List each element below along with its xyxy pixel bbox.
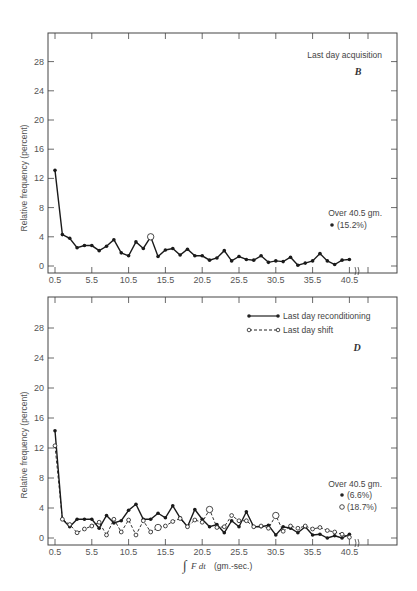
data-point-filled (97, 526, 101, 530)
data-point-open (348, 535, 352, 539)
data-point-filled (274, 533, 278, 537)
data-point-filled (245, 258, 249, 262)
data-point-filled (237, 525, 241, 529)
data-point-open (75, 531, 79, 535)
x-tick-label: 0.5 (49, 547, 62, 557)
over-marker-open (340, 505, 345, 510)
over-label: Over 40.5 gm. (328, 479, 382, 489)
data-point-filled (274, 259, 278, 263)
legend-label-shift: Last day shift (283, 325, 334, 335)
data-point-open (289, 524, 293, 528)
chart-panel-d: 04812162024280.55.510.515.520.525.530.53… (19, 297, 397, 574)
x-tick-label: 40.5 (341, 547, 359, 557)
y-tick-label: 20 (34, 383, 44, 393)
data-point-filled (90, 517, 94, 521)
axis-break-icon (355, 539, 359, 547)
y-tick-label: 4 (39, 503, 44, 513)
over-value-open: (18.7%) (347, 502, 377, 512)
y-tick-label: 24 (34, 353, 44, 363)
panel-title: Last day acquisition (307, 50, 382, 60)
data-point-filled (193, 254, 197, 258)
data-point-filled (245, 510, 249, 514)
x-tick-label: 5.5 (86, 275, 99, 285)
data-point-open (90, 524, 94, 528)
data-point-filled (311, 259, 315, 263)
data-point-open (97, 520, 101, 524)
data-point-open (215, 526, 219, 530)
x-tick-label: 20.5 (193, 547, 211, 557)
data-point-filled (303, 261, 307, 265)
legend-label-reconditioning: Last day reconditioning (283, 311, 371, 321)
over-value: (15.2%) (337, 220, 367, 230)
legend-item-shift: Last day shift (247, 325, 334, 335)
y-tick-label: 8 (39, 203, 44, 213)
data-point-filled (289, 255, 293, 259)
y-tick-label: 20 (34, 115, 44, 125)
data-point-filled (127, 254, 131, 258)
data-point-filled (105, 514, 109, 518)
data-point-filled (142, 247, 146, 251)
data-point-filled (348, 258, 352, 262)
figure: 04812162024280.55.510.515.520.525.530.53… (0, 0, 417, 591)
data-point-filled (267, 261, 271, 265)
over-marker-filled (330, 223, 334, 227)
x-tick-label: 40.5 (341, 275, 359, 285)
integral-sign: ∫ (182, 558, 188, 574)
data-point-filled (68, 236, 72, 240)
data-point-open (303, 524, 307, 528)
data-point-open (186, 525, 190, 529)
data-point-filled (222, 249, 226, 253)
data-point-filled (318, 252, 322, 256)
data-point-filled (90, 244, 94, 248)
data-point-open (273, 512, 279, 518)
data-point-filled (230, 259, 234, 263)
y-tick-label: 16 (34, 413, 44, 423)
data-point-open (244, 519, 248, 523)
data-point-filled (230, 519, 234, 523)
data-point-open (127, 518, 131, 522)
data-point-open (105, 533, 109, 537)
x-tick-label: 35.5 (304, 547, 322, 557)
data-point-filled (171, 504, 175, 508)
data-point-filled (340, 536, 344, 540)
data-point-open (164, 524, 168, 528)
data-point-open (119, 530, 123, 534)
over-marker-filled (340, 493, 344, 497)
data-point-filled (149, 517, 153, 521)
data-point-filled (215, 256, 219, 260)
data-point-filled (127, 508, 131, 512)
data-point-filled (105, 244, 109, 248)
y-tick-label: 12 (34, 443, 44, 453)
data-point-filled (186, 247, 190, 251)
data-point-filled (259, 254, 263, 258)
x-tick-label: 0.5 (49, 275, 62, 285)
x-tick-label: 25.5 (230, 275, 248, 285)
data-point-filled (311, 533, 315, 537)
data-point-open (325, 529, 329, 533)
data-point-filled (326, 259, 330, 263)
data-point-filled (97, 249, 101, 253)
data-point-filled (134, 502, 138, 506)
data-point-open (155, 524, 161, 530)
y-tick-label: 16 (34, 144, 44, 154)
data-point-filled (281, 260, 285, 264)
data-point-open (112, 517, 116, 521)
data-point-open (134, 533, 138, 537)
data-point-open (149, 530, 153, 534)
data-point-open (53, 444, 57, 448)
data-point-open (222, 525, 226, 529)
data-point-open (230, 514, 234, 518)
data-point-open (147, 234, 153, 240)
data-point-filled (83, 244, 87, 248)
y-tick-label: 12 (34, 173, 44, 183)
y-tick-label: 0 (39, 533, 44, 543)
legend-item-reconditioning: Last day reconditioning (247, 311, 370, 321)
y-tick-label: 28 (34, 323, 44, 333)
data-point-filled (83, 517, 87, 521)
data-point-open (259, 524, 263, 528)
data-point-filled (333, 263, 337, 267)
data-point-open (83, 527, 87, 531)
data-point-open (267, 526, 271, 530)
data-point-open (60, 517, 64, 521)
data-point-filled (208, 258, 212, 262)
